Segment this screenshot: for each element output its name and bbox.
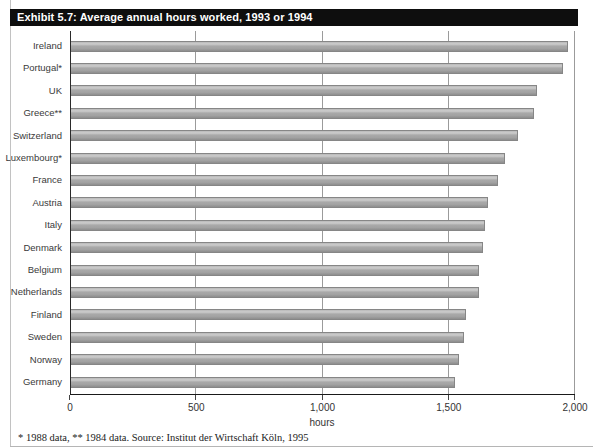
category-label-belgium: Belgium <box>0 264 62 276</box>
x-tick-label-1000: 1,000 <box>310 402 335 413</box>
bar-finland <box>70 309 466 320</box>
bar-portugal <box>70 63 563 74</box>
category-label-norway: Norway <box>0 354 62 366</box>
footnote: * 1988 data, ** 1984 data. Source: Insti… <box>18 432 308 443</box>
exhibit-title-bar: Exhibit 5.7: Average annual hours worked… <box>10 9 578 26</box>
bar-belgium <box>70 265 479 276</box>
x-tick-label-2000: 2,000 <box>562 402 587 413</box>
bar-norway <box>70 354 459 365</box>
bar-italy <box>70 220 485 231</box>
x-tick-mark-1000 <box>322 395 323 400</box>
category-label-ireland: Ireland <box>0 40 62 52</box>
category-label-netherlands: Netherlands <box>0 286 62 298</box>
x-tick-label-0: 0 <box>67 402 73 413</box>
category-label-uk: UK <box>0 85 62 97</box>
category-label-finland: Finland <box>0 309 62 321</box>
category-label-france: France <box>0 174 62 186</box>
x-tick-mark-500 <box>195 395 196 400</box>
category-label-luxembourg: Luxembourg* <box>0 152 62 164</box>
category-label-italy: Italy <box>0 219 62 231</box>
bar-luxembourg <box>70 153 505 164</box>
x-tick-label-1500: 1,500 <box>436 402 461 413</box>
x-tick-mark-1500 <box>448 395 449 400</box>
category-label-austria: Austria <box>0 197 62 209</box>
category-label-switzerland: Switzerland <box>0 130 62 142</box>
bar-austria <box>70 197 488 208</box>
category-label-portugal: Portugal* <box>0 62 62 74</box>
bar-uk <box>70 85 537 96</box>
bar-france <box>70 175 498 186</box>
gridline-2000 <box>574 31 575 395</box>
category-label-greece: Greece** <box>0 107 62 119</box>
bar-greece <box>70 108 534 119</box>
bar-ireland <box>70 41 568 52</box>
x-tick-mark-2000 <box>574 395 575 400</box>
category-label-germany: Germany <box>0 376 62 388</box>
bar-denmark <box>70 242 483 253</box>
bar-sweden <box>70 332 464 343</box>
x-axis-label: hours <box>309 417 334 428</box>
exhibit-title: Exhibit 5.7: Average annual hours worked… <box>17 11 313 23</box>
y-axis-line <box>70 31 71 395</box>
category-label-sweden: Sweden <box>0 331 62 343</box>
category-label-denmark: Denmark <box>0 242 62 254</box>
x-axis-line <box>70 394 575 395</box>
x-tick-mark-0 <box>69 395 70 400</box>
plot-area <box>70 31 575 395</box>
page-frame-bottom <box>10 446 593 447</box>
bar-switzerland <box>70 130 518 141</box>
exhibit-page: Exhibit 5.7: Average annual hours worked… <box>0 0 597 448</box>
bar-germany <box>70 377 455 388</box>
x-tick-label-500: 500 <box>188 402 205 413</box>
bar-netherlands <box>70 287 479 298</box>
